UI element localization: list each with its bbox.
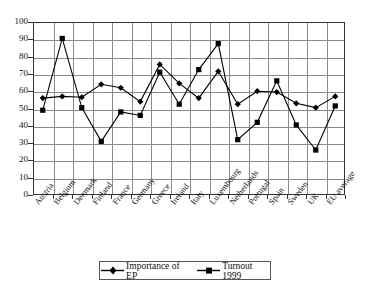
y-axis-tick-label: 100 [4,17,28,26]
gridline-vertical [268,23,269,194]
y-axis-tick-label: 30 [4,138,28,147]
gridline-vertical [151,23,152,194]
gridline-horizontal [34,144,344,145]
y-axis-tick-label: 40 [4,121,28,130]
chart-legend: Importance of EP Turnout 1999 [99,261,271,280]
gridline-vertical [210,23,211,194]
diamond-marker-icon [100,265,124,276]
y-axis-tick-label: 80 [4,52,28,61]
gridline-vertical [288,23,289,194]
gridline-horizontal [34,110,344,111]
gridline-vertical [73,23,74,194]
legend-item-importance-of-ep: Importance of EP [100,261,188,281]
y-axis-tick-label: 60 [4,86,28,95]
y-axis-tick-label: 70 [4,69,28,78]
gridline-vertical [171,23,172,194]
plot-area [33,22,345,195]
gridline-vertical [93,23,94,194]
gridline-vertical [132,23,133,194]
gridline-horizontal [34,92,344,93]
gridline-vertical [249,23,250,194]
gridline-vertical [327,23,328,194]
square-marker-icon [196,265,220,276]
gridline-vertical [54,23,55,194]
gridline-horizontal [34,58,344,59]
y-axis-tick-label: 0 [4,190,28,199]
gridline-horizontal [34,75,344,76]
gridline-horizontal [34,179,344,180]
gridline-vertical [190,23,191,194]
gridline-horizontal [34,40,344,41]
gridline-vertical [112,23,113,194]
y-axis-tick-label: 20 [4,155,28,164]
line-chart: 0102030405060708090100 AustriaBelgiumDen… [0,0,368,289]
y-axis-tick-label: 90 [4,34,28,43]
y-axis-tick [28,195,33,196]
legend-label-importance-of-ep: Importance of EP [126,261,188,281]
gridline-horizontal [34,127,344,128]
gridline-vertical [307,23,308,194]
gridline-horizontal [34,161,344,162]
legend-label-turnout-1999: Turnout 1999 [222,261,270,281]
x-axis-tick [345,195,346,199]
gridline-vertical [229,23,230,194]
y-axis-tick-label: 10 [4,173,28,182]
legend-item-turnout-1999: Turnout 1999 [196,261,270,281]
y-axis-tick-label: 50 [4,104,28,113]
